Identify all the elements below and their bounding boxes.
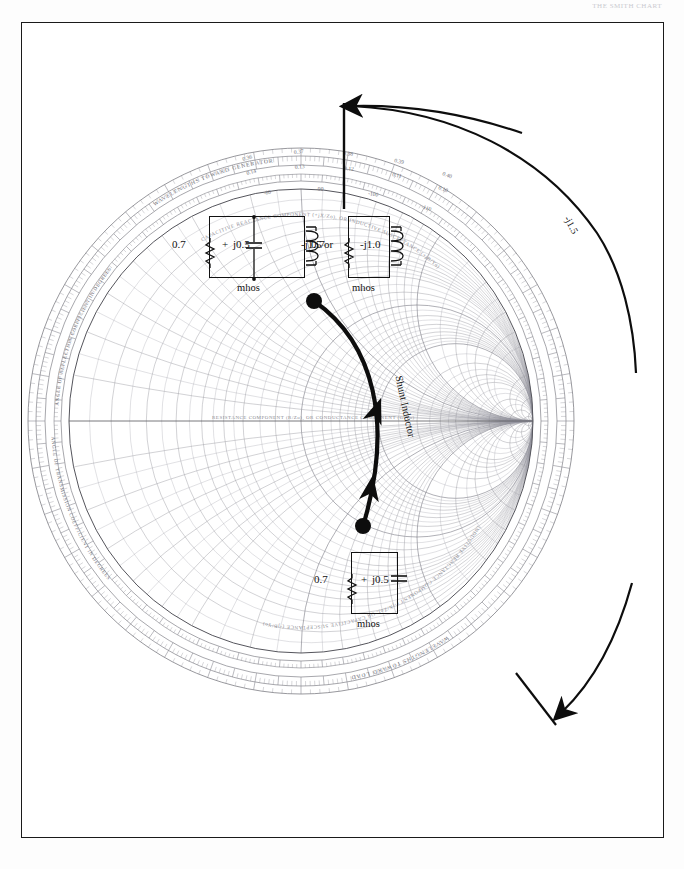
svg-text:0.14: 0.14 [246,168,257,176]
svg-text:0.10: 0.10 [438,184,450,193]
svg-text:-80: -80 [263,189,272,196]
svg-text:0.12: 0.12 [344,165,354,172]
svg-text:0.39: 0.39 [394,157,405,165]
page-root: THE SMITH CHART [0,0,684,869]
end-point-marker [355,518,371,534]
circuit-top-right-units: mhos [352,282,375,293]
circuit-bottom-capacitor-value: j0.5 [372,573,389,585]
circuit-bottom-plus: + [361,573,367,585]
page-frame: WAVELENGTHS TOWARD GENERATOR WAVELENGTHS… [21,22,664,838]
start-point-marker [306,293,322,309]
circuit-top-left-resistor-value: 0.7 [172,238,186,250]
svg-text:0.40: 0.40 [442,170,454,179]
circuit-top-left-plus: + [222,238,228,250]
circuit-top-left-units: mhos [237,282,260,293]
smith-chart-stage: WAVELENGTHS TOWARD GENERATOR WAVELENGTHS… [22,23,663,837]
circuit-bottom: 0.7 + j0.5 mhos [351,552,398,614]
svg-text:WAVELENGTHS TOWARD GENERATOR: WAVELENGTHS TOWARD GENERATOR [152,157,274,206]
or-separator: or [324,238,333,250]
circuit-top-left: 0.7 + j0.5 -j1.5 mhos [209,216,305,278]
svg-text:0.11: 0.11 [392,171,403,179]
svg-text:WAVELENGTHS TOWARD LOAD: WAVELENGTHS TOWARD LOAD [350,635,450,681]
bottom-reference-marker [516,583,632,725]
svg-text:-90: -90 [316,186,324,192]
page-header-text: THE SMITH CHART [592,2,662,10]
smith-grid [22,23,663,837]
circuit-top-left-capacitor-value: j0.5 [233,238,250,250]
circuit-bottom-resistor-value: 0.7 [314,573,328,585]
svg-text:RESISTANCE COMPONENT (R/Zo), O: RESISTANCE COMPONENT (R/Zo), OR CONDUCTA… [212,415,415,421]
svg-text:-100: -100 [368,190,379,198]
svg-text:0.37: 0.37 [293,148,304,155]
circuit-top-right-resistor-value: 0.7 [311,238,325,250]
circuit-top-right-inductor-value: -j1.0 [360,238,380,250]
circuit-bottom-units: mhos [357,618,380,629]
smith-chart-graphic: WAVELENGTHS TOWARD GENERATOR WAVELENGTHS… [22,23,663,837]
circuit-top-right: 0.7 -j1.0 mhos [348,216,390,278]
svg-text:0.13: 0.13 [294,163,305,170]
